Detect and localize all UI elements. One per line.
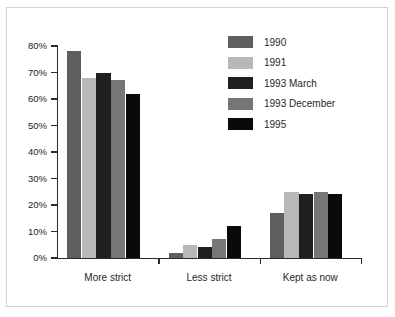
plot-area: 0%10%20%30%40%50%60%70%80% More strictLe… bbox=[0, 0, 395, 317]
legend-item-label: 1990 bbox=[264, 37, 286, 48]
x-axis-label-less-strict: Less strict bbox=[158, 272, 259, 284]
legend-item: 1993 December bbox=[228, 94, 378, 115]
bar-kept-as-now-1990 bbox=[270, 213, 284, 258]
legend-swatch-icon bbox=[228, 77, 253, 89]
legend-swatch-icon bbox=[228, 57, 253, 69]
x-axis-line bbox=[57, 258, 361, 259]
legend-item-label: 1995 bbox=[264, 119, 286, 130]
x-axis-group-tick bbox=[158, 258, 159, 264]
legend-item-label: 1993 December bbox=[264, 98, 335, 109]
x-axis-group-tick bbox=[260, 258, 261, 264]
x-axis-group-tick bbox=[361, 258, 362, 264]
bar-less-strict-1990 bbox=[169, 253, 183, 258]
bar-less-strict-1993-march bbox=[198, 247, 212, 258]
legend-item-label: 1993 March bbox=[264, 78, 317, 89]
legend-swatch-icon bbox=[228, 118, 253, 130]
legend-swatch-icon bbox=[228, 36, 253, 48]
bar-less-strict-1991 bbox=[183, 245, 197, 258]
legend-item: 1993 March bbox=[228, 73, 378, 94]
bar-less-strict-1993-december bbox=[212, 239, 226, 258]
chart-figure: 0%10%20%30%40%50%60%70%80% More strictLe… bbox=[0, 0, 395, 317]
bar-more-strict-1991 bbox=[82, 78, 96, 258]
bar-more-strict-1990 bbox=[67, 51, 81, 258]
bar-kept-as-now-1995 bbox=[328, 194, 342, 258]
bar-more-strict-1993-december bbox=[111, 80, 125, 258]
legend-item-label: 1991 bbox=[264, 57, 286, 68]
bar-kept-as-now-1993-december bbox=[314, 192, 328, 258]
x-axis-label-more-strict: More strict bbox=[57, 272, 158, 284]
legend-item: 1990 bbox=[228, 32, 378, 53]
bar-less-strict-1995 bbox=[227, 226, 241, 258]
x-axis-label-kept-as-now: Kept as now bbox=[260, 272, 361, 284]
bar-more-strict-1995 bbox=[126, 94, 140, 258]
legend-item: 1991 bbox=[228, 53, 378, 74]
bar-kept-as-now-1991 bbox=[284, 192, 298, 258]
chart-legend: 199019911993 March1993 December1995 bbox=[228, 32, 378, 135]
bar-kept-as-now-1993-march bbox=[299, 194, 313, 258]
bar-more-strict-1993-march bbox=[96, 73, 110, 259]
legend-item: 1995 bbox=[228, 114, 378, 135]
legend-swatch-icon bbox=[228, 98, 253, 110]
